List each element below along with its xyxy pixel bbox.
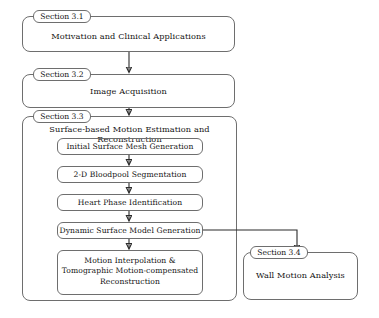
step-motion-interpolation-reconstruction-label: Motion Interpolation & Tomographic Motio… [57, 256, 203, 287]
section-3-4-tag: Section 3.4 [250, 246, 308, 259]
step-2d-bloodpool-segmentation-label: 2-D Bloodpool Segmentation [57, 170, 203, 179]
section-3-4-heading: Wall Motion Analysis [243, 270, 358, 280]
step-initial-surface-mesh-generation-label: Initial Surface Mesh Generation [57, 142, 203, 151]
step-heart-phase-identification-label: Heart Phase Identification [57, 198, 203, 207]
section-3-1-tag: Section 3.1 [33, 10, 91, 23]
flowchart-diagram: Section 3.1 Motivation and Clinical Appl… [0, 0, 379, 318]
section-3-2-tag: Section 3.2 [33, 68, 91, 81]
step-dynamic-surface-model-generation-label: Dynamic Surface Model Generation [57, 226, 203, 235]
section-3-3-tag: Section 3.3 [33, 110, 91, 123]
section-3-2-heading: Image Acquisition [22, 86, 235, 96]
section-3-1-heading: Motivation and Clinical Applications [22, 31, 235, 41]
